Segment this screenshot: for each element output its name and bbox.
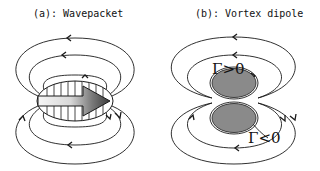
circulation-positive-label: Γ>0: [212, 62, 245, 77]
arrow-down-right-icon: [290, 114, 296, 120]
circulation-negative-label: Γ<0: [248, 131, 281, 146]
wavepacket-envelope: [37, 78, 113, 124]
arrow-up-icon: [189, 115, 194, 120]
